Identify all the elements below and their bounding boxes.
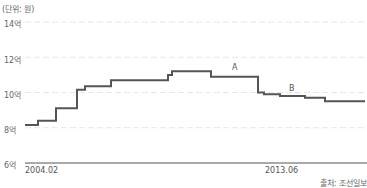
price-step-line: [25, 71, 365, 125]
x-tick-end: 2013.06: [265, 166, 298, 175]
chart-plot-area: [0, 0, 367, 188]
annotation-a: A: [232, 63, 237, 72]
annotation-b: B: [289, 84, 295, 93]
source-label: 출처: 조선일보: [320, 177, 367, 188]
x-tick-start: 2004.02: [25, 166, 58, 175]
